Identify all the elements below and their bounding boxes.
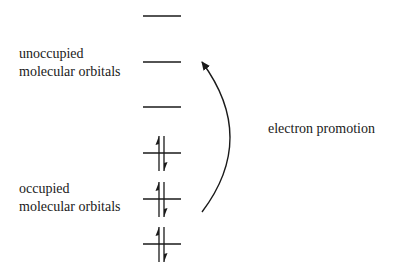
unoccupied-label-line1: unoccupied xyxy=(19,45,120,63)
occupied-label-line2: molecular orbitals xyxy=(19,198,120,216)
unoccupied-label: unoccupied molecular orbitals xyxy=(19,45,120,81)
orbital-diagram xyxy=(0,0,400,277)
electron-promotion-arrow-icon xyxy=(202,62,230,212)
occupied-label-line1: occupied xyxy=(19,180,120,198)
occupied-orbital xyxy=(143,182,181,217)
electron-promotion-label: electron promotion xyxy=(268,120,375,138)
occupied-label: occupied molecular orbitals xyxy=(19,180,120,216)
occupied-orbital xyxy=(143,227,181,262)
occupied-orbital xyxy=(143,136,181,171)
unoccupied-label-line2: molecular orbitals xyxy=(19,63,120,81)
